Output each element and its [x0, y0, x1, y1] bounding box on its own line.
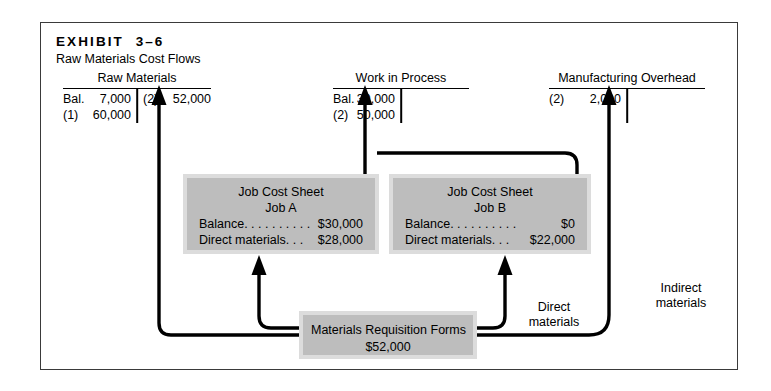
- job-sheet-row: Direct materials. . . $28,000: [199, 232, 363, 248]
- arrow-requisition-to-job-b: [477, 255, 513, 328]
- t-account-raw-materials: Raw Materials Bal. 7,000 (1) 60,000 (2) …: [63, 71, 211, 123]
- row-value: $30,000: [318, 216, 363, 232]
- t-account-credit-side: [627, 89, 705, 123]
- entry-ref: (1): [63, 107, 78, 123]
- t-account-credit-side: [401, 89, 469, 123]
- t-account-work-in-process: Work in Process Bal. 30,000 (2) 50,000: [333, 71, 469, 123]
- entry-amount: 30,000: [357, 91, 395, 107]
- exhibit-frame: EXHIBIT 3–6 Raw Materials Cost Flows: [40, 22, 738, 370]
- t-account-spacer: [627, 107, 705, 123]
- entry-amount: 2,000: [590, 91, 621, 107]
- job-sheet-title: Job Cost Sheet: [199, 184, 363, 200]
- entry-ref: Bal.: [333, 91, 355, 107]
- entry-amount: 60,000: [93, 107, 131, 123]
- entry-ref: (2): [333, 107, 348, 123]
- t-account-debit-side: Bal. 30,000 (2) 50,000: [333, 89, 401, 123]
- job-sheet-job-name: Job B: [405, 200, 575, 216]
- t-account-entry: (2) 2,000: [549, 91, 627, 107]
- row-value: $28,000: [318, 232, 363, 248]
- t-account-title: Manufacturing Overhead: [549, 71, 705, 88]
- job-cost-sheet-b: Job Cost Sheet Job B Balance. . . . . . …: [389, 174, 591, 254]
- t-account-entry: Bal. 30,000: [333, 91, 401, 107]
- t-account-body: Bal. 7,000 (1) 60,000 (2) 52,000: [63, 89, 211, 123]
- entry-ref: (2): [143, 91, 158, 107]
- t-account-spacer: [401, 91, 469, 107]
- requisition-title: Materials Requisition Forms: [311, 322, 465, 339]
- t-account-spacer: [549, 107, 627, 123]
- t-account-debit-side: Bal. 7,000 (1) 60,000: [63, 89, 137, 123]
- entry-ref: Bal.: [63, 91, 85, 107]
- job-sheet-title: Job Cost Sheet: [405, 184, 575, 200]
- materials-requisition-forms-box: Materials Requisition Forms $52,000: [299, 311, 477, 359]
- panel-inner: Materials Requisition Forms $52,000: [303, 315, 473, 355]
- job-sheet-job-name: Job A: [199, 200, 363, 216]
- row-label: Direct materials. . .: [405, 232, 509, 248]
- panel-inner: Job Cost Sheet Job A Balance. . . . . . …: [187, 178, 375, 250]
- job-sheet-row: Direct materials. . . $22,000: [405, 232, 575, 248]
- job-sheet-row: Balance. . . . . . . . . . $0: [405, 216, 575, 232]
- t-account-spacer: [137, 107, 211, 123]
- t-account-body: Bal. 30,000 (2) 50,000: [333, 89, 469, 123]
- t-account-title: Work in Process: [333, 71, 469, 88]
- t-account-entry: (1) 60,000: [63, 107, 137, 123]
- row-label: Balance. . . . . . . . . .: [199, 216, 310, 232]
- entry-amount: 50,000: [357, 107, 395, 123]
- row-value: $0: [561, 216, 575, 232]
- t-account-entry: (2) 52,000: [137, 91, 211, 107]
- row-label: Direct materials. . .: [199, 232, 303, 248]
- label-indirect-materials: Indirect materials: [641, 281, 721, 311]
- entry-ref: (2): [549, 91, 564, 107]
- requisition-amount: $52,000: [311, 339, 465, 356]
- label-direct-materials: Direct materials: [517, 300, 591, 330]
- panel-inner: Job Cost Sheet Job B Balance. . . . . . …: [393, 178, 587, 250]
- t-account-body: (2) 2,000: [549, 89, 705, 123]
- arrow-requisition-to-job-a: [252, 255, 300, 328]
- row-label: Balance. . . . . . . . . .: [405, 216, 516, 232]
- t-account-credit-side: (2) 52,000: [137, 89, 211, 123]
- entry-amount: 52,000: [173, 91, 211, 107]
- job-cost-sheet-a: Job Cost Sheet Job A Balance. . . . . . …: [183, 174, 379, 254]
- entry-amount: 7,000: [100, 91, 131, 107]
- row-value: $22,000: [530, 232, 575, 248]
- t-account-spacer: [401, 107, 469, 123]
- t-account-entry: Bal. 7,000: [63, 91, 137, 107]
- t-account-entry: (2) 50,000: [333, 107, 401, 123]
- t-account-spacer: [627, 91, 705, 107]
- t-account-manufacturing-overhead: Manufacturing Overhead (2) 2,000: [549, 71, 705, 123]
- t-account-debit-side: (2) 2,000: [549, 89, 627, 123]
- job-sheet-row: Balance. . . . . . . . . . $30,000: [199, 216, 363, 232]
- t-account-title: Raw Materials: [63, 71, 211, 88]
